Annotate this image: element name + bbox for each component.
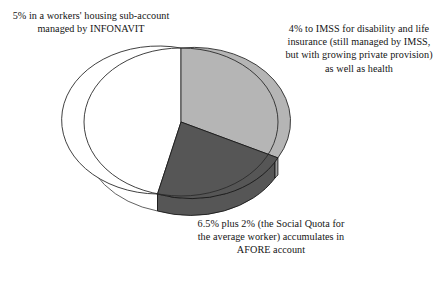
pie-chart-figure: 5% in a workers' housing sub-account man… (0, 0, 437, 297)
pie-top-faces (62, 46, 291, 199)
pie-slice-infonavit[interactable] (62, 46, 181, 194)
annotation-infonavit: 5% in a workers' housing sub-account man… (8, 9, 174, 35)
annotation-afore: 6.5% plus 2% (the Social Quota for the a… (196, 217, 346, 257)
annotation-imss: 4% to IMSS for disability and life insur… (283, 22, 435, 75)
